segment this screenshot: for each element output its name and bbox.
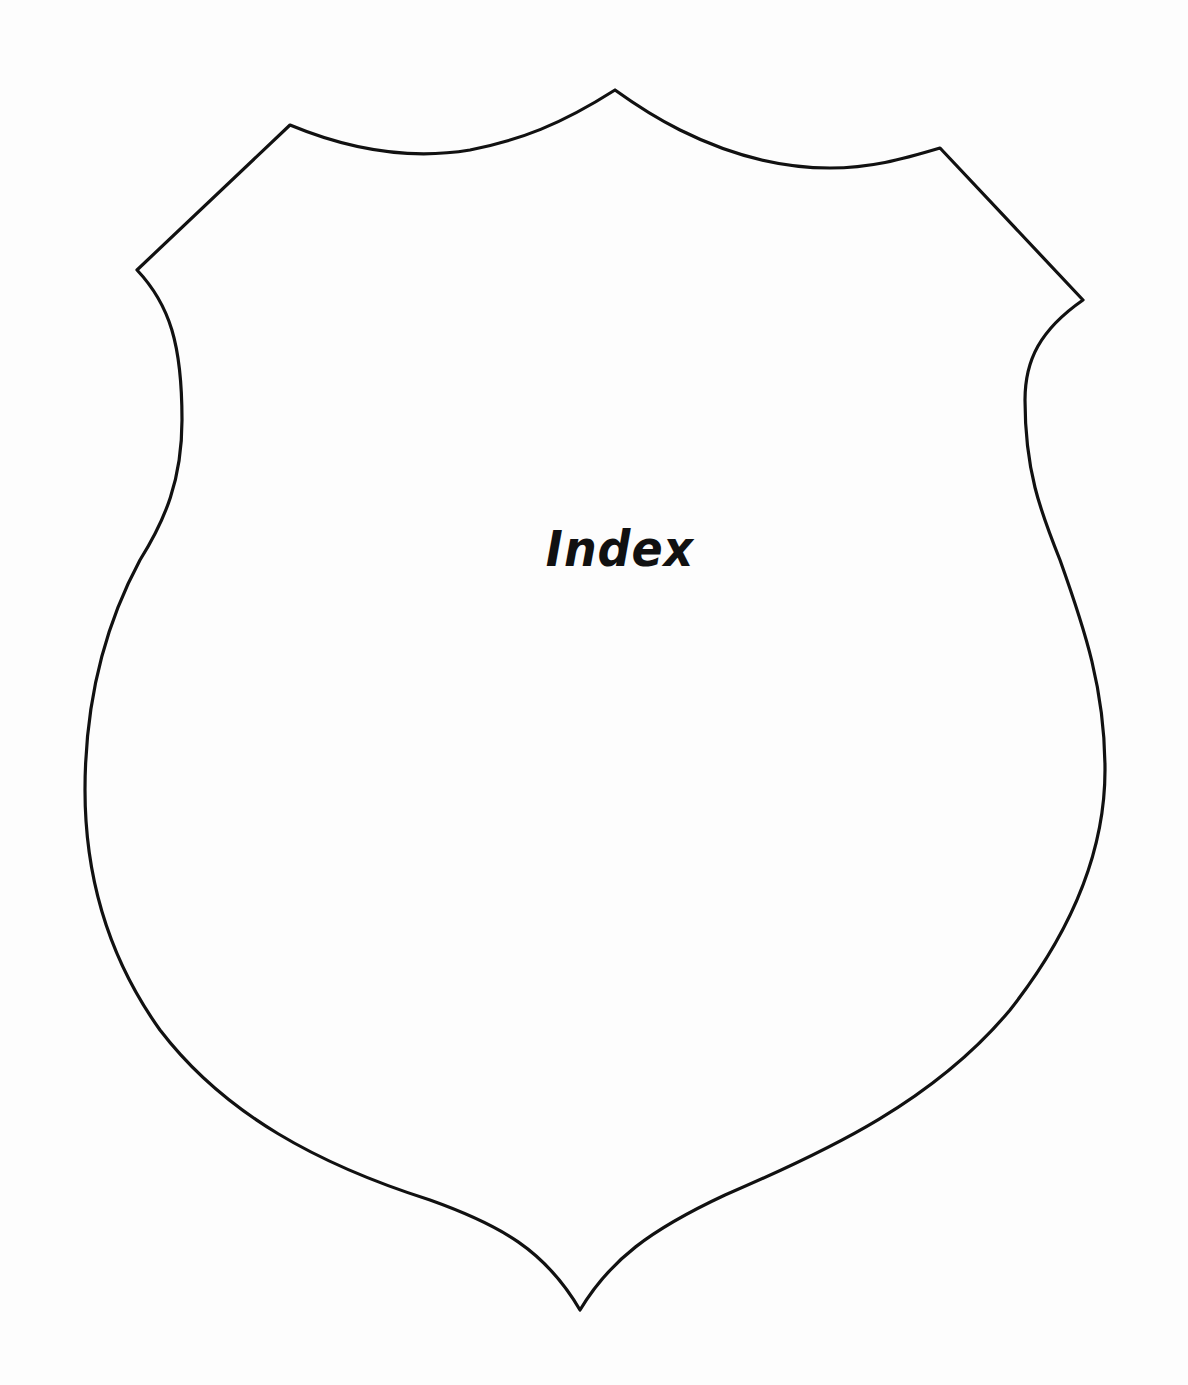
- shield-outline-icon: [0, 0, 1188, 1385]
- index-page: Index: [0, 0, 1188, 1385]
- page-title: Index: [50, 520, 1143, 578]
